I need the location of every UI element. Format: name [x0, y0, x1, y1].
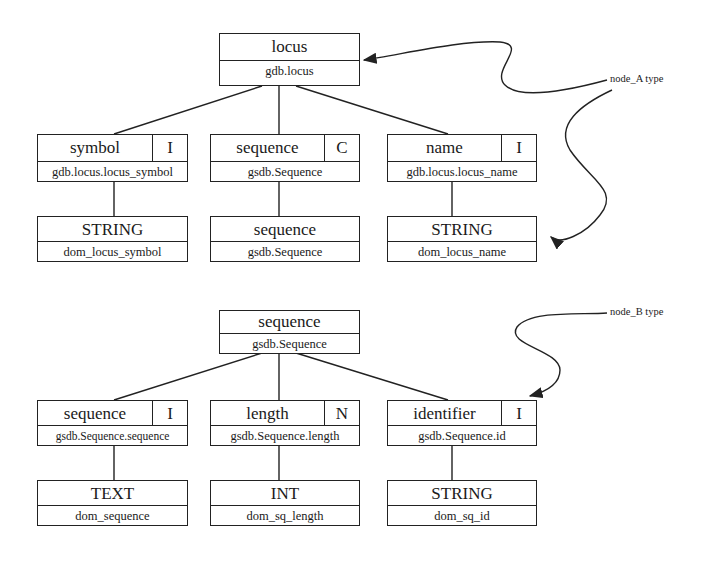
node-name: sequence: [38, 401, 152, 425]
node-b-type-annotation: node_B type: [610, 306, 663, 317]
node-a-type-annotation: node_A type: [610, 73, 663, 84]
type-node-string-symbol: STRING dom_locus_symbol: [37, 216, 188, 262]
node-name: locus: [220, 34, 359, 60]
node-column: gdb.locus.locus_name: [388, 162, 536, 182]
node-flag: I: [152, 135, 187, 161]
node-symbol: symbolI gdb.locus.locus_symbol: [37, 134, 188, 182]
type-name: INT: [211, 481, 359, 505]
type-name: sequence: [211, 217, 359, 241]
type-node-text: TEXT dom_sequence: [37, 480, 188, 526]
node-name: sequence: [220, 311, 359, 333]
node-name: name: [388, 135, 501, 161]
node-flag: I: [501, 135, 536, 161]
type-name: STRING: [388, 481, 536, 505]
node-flag: N: [324, 401, 359, 425]
type-name: TEXT: [38, 481, 187, 505]
node-column: gsdb.Sequence.sequence: [38, 426, 187, 446]
type-domain: dom_sq_id: [388, 506, 536, 526]
type-name: STRING: [38, 217, 187, 241]
node-sequence-root: sequence gsdb.Sequence: [219, 310, 360, 354]
type-domain: dom_locus_symbol: [38, 242, 187, 262]
node-length: lengthN gsdb.Sequence.length: [210, 400, 360, 446]
node-name: identifier: [388, 401, 501, 425]
node-identifier: identifierI gsdb.Sequence.id: [387, 400, 537, 446]
node-table: gdb.locus: [220, 61, 359, 81]
node-column: gdb.locus.locus_symbol: [38, 162, 187, 182]
node-sequence-i: sequenceI gsdb.Sequence.sequence: [37, 400, 188, 446]
type-name: STRING: [388, 217, 536, 241]
node-sequence-c: sequenceC gsdb.Sequence: [210, 134, 360, 182]
type-domain: dom_locus_name: [388, 242, 536, 262]
type-node-string-id: STRING dom_sq_id: [387, 480, 537, 526]
type-node-string-name: STRING dom_locus_name: [387, 216, 537, 262]
node-column: gsdb.Sequence: [211, 162, 359, 182]
type-node-int: INT dom_sq_length: [210, 480, 360, 526]
node-flag: I: [501, 401, 536, 425]
node-locus-root: locus gdb.locus: [219, 33, 360, 86]
node-name: nameI gdb.locus.locus_name: [387, 134, 537, 182]
node-flag: C: [324, 135, 359, 161]
node-name: symbol: [38, 135, 152, 161]
node-name: sequence: [211, 135, 324, 161]
node-column: gsdb.Sequence.id: [388, 426, 536, 446]
node-table: gsdb.Sequence: [220, 334, 359, 354]
node-flag: I: [152, 401, 187, 425]
node-name: length: [211, 401, 324, 425]
type-domain: dom_sequence: [38, 506, 187, 526]
type-domain: gsdb.Sequence: [211, 242, 359, 262]
type-domain: dom_sq_length: [211, 506, 359, 526]
type-node-sequence: sequence gsdb.Sequence: [210, 216, 360, 262]
node-column: gsdb.Sequence.length: [211, 426, 359, 446]
